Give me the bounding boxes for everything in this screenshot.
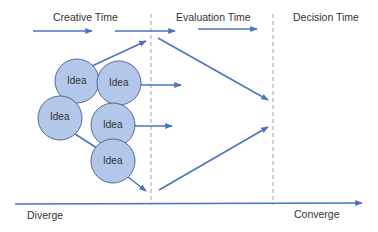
idea-label-4: Idea (103, 119, 122, 130)
idea-5-arrow (128, 177, 146, 191)
idea-label-1: Idea (67, 75, 86, 86)
axis-label-converge: Converge (294, 208, 340, 220)
idea-label-2: Idea (109, 77, 128, 88)
phase-label-creative: Creative Time (53, 11, 118, 23)
converge-arrow-top (158, 38, 268, 100)
idea-label-3: Idea (50, 111, 69, 122)
converge-arrow-bottom (159, 127, 268, 190)
diverge-converge-axis (15, 203, 362, 204)
diverge-converge-diagram: Creative Time Evaluation Time Decision T… (0, 0, 378, 232)
phase-label-decision: Decision Time (293, 11, 359, 23)
phase-label-evaluation: Evaluation Time (176, 11, 251, 23)
axis-label-diverge: Diverge (27, 209, 63, 221)
idea-label-5: Idea (103, 155, 122, 166)
